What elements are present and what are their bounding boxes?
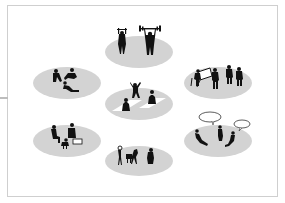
zone-play <box>105 146 173 176</box>
zone-work <box>184 65 252 99</box>
dining-table-icon <box>73 139 82 144</box>
zone-relax <box>33 67 101 99</box>
zone-dining <box>33 123 101 157</box>
activity-zones-diagram <box>0 0 285 203</box>
zone-fitness <box>105 26 173 69</box>
zone-social <box>184 112 252 157</box>
zone-meditation <box>105 82 173 120</box>
